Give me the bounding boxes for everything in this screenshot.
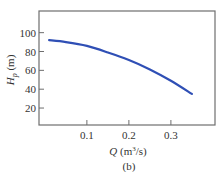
y-axis-label: Hp (m)	[4, 54, 19, 86]
pump-curve-chart: 20406080100 0.10.20.3 Hp (m) Q (m3/s) (b…	[0, 0, 223, 172]
y-tick-label: 20	[25, 102, 37, 114]
figure-caption: (b)	[123, 160, 136, 172]
x-tick-label: 0.3	[164, 129, 178, 141]
x-axis-label: Q (m3/s)	[109, 145, 147, 158]
y-tick-label: 80	[25, 46, 37, 58]
x-tick-label: 0.1	[80, 129, 94, 141]
y-tick-label: 40	[25, 83, 37, 95]
plot-frame	[39, 11, 215, 125]
y-tick-label: 60	[25, 64, 37, 76]
y-tick-label: 100	[20, 27, 37, 39]
x-tick-label: 0.2	[122, 129, 136, 141]
